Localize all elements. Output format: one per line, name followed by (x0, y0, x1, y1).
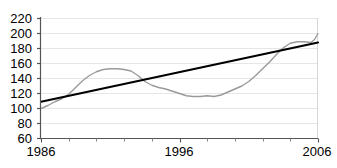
y-tick-label-220: 220 (2, 12, 32, 25)
chart-plot-svg (0, 0, 337, 168)
data-series-polyline (41, 34, 318, 109)
y-tick-label-80: 80 (2, 117, 32, 130)
y-tick-label-100: 100 (2, 102, 32, 115)
y-tick-label-180: 180 (2, 42, 32, 55)
x-tick-label-2006: 2006 (294, 145, 337, 158)
y-tick-label-120: 120 (2, 87, 32, 100)
x-tick-label-1996: 1996 (156, 145, 202, 158)
x-tick-label-1986: 1986 (18, 145, 64, 158)
chart-container: 220 200 180 160 140 120 100 80 60 1986 1… (0, 0, 337, 168)
y-tick-label-160: 160 (2, 57, 32, 70)
x-axis-ticks (42, 139, 319, 143)
y-tick-label-200: 200 (2, 27, 32, 40)
gridlines (41, 19, 318, 124)
y-tick-label-140: 140 (2, 72, 32, 85)
